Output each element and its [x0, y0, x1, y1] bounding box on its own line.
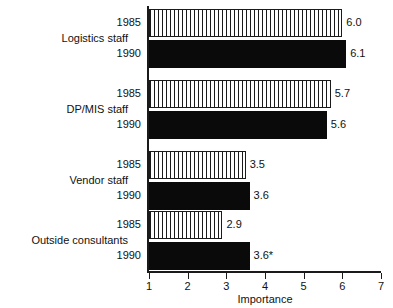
x-axis-tick-label: 6	[330, 280, 354, 292]
year-label: 1990	[107, 189, 141, 201]
x-axis-tick	[342, 273, 343, 279]
x-axis-tick-label: 7	[369, 280, 393, 292]
year-label: 1990	[107, 47, 141, 59]
bar-1985-outside-consultants	[149, 211, 222, 239]
x-axis-line	[147, 271, 381, 273]
year-label: 1985	[107, 218, 141, 230]
bar-1990-outside-consultants	[149, 242, 250, 270]
bar-chart: 1234567 Logistics staff19856.019906.1DP/…	[0, 0, 393, 308]
bar-1985-vendor-staff	[149, 151, 246, 179]
year-label: 1985	[107, 158, 141, 170]
year-label: 1985	[107, 87, 141, 99]
x-axis-title: Importance	[149, 293, 381, 305]
year-label: 1990	[107, 249, 141, 261]
bar-value-label: 2.9	[226, 218, 241, 230]
bar-value-label: 6.1	[350, 47, 365, 59]
category-label: Logistics staff	[8, 32, 128, 44]
x-axis-tick	[304, 273, 305, 279]
bar-value-label: 3.5	[250, 158, 265, 170]
bar-1990-vendor-staff	[149, 182, 250, 210]
x-axis-tick-label: 5	[292, 280, 316, 292]
bar-value-label: 3.6*	[254, 249, 274, 261]
category-label: Outside consultants	[8, 234, 128, 246]
x-axis-tick-label: 1	[137, 280, 161, 292]
category-label: Vendor staff	[8, 174, 128, 186]
bar-value-label: 6.0	[346, 16, 361, 28]
x-axis-tick	[226, 273, 227, 279]
category-label: DP/MIS staff	[8, 103, 128, 115]
x-axis-tick-label: 2	[176, 280, 200, 292]
year-label: 1985	[107, 16, 141, 28]
bar-1985-dp-mis-staff	[149, 80, 331, 108]
bar-value-label: 3.6	[254, 189, 269, 201]
bar-1985-logistics-staff	[149, 9, 342, 37]
year-label: 1990	[107, 118, 141, 130]
bar-value-label: 5.7	[335, 87, 350, 99]
x-axis-tick	[149, 273, 150, 279]
x-axis-tick-label: 3	[214, 280, 238, 292]
x-axis-tick	[381, 273, 382, 279]
bar-value-label: 5.6	[331, 118, 346, 130]
x-axis-tick	[188, 273, 189, 279]
x-axis-tick	[265, 273, 266, 279]
bar-1990-logistics-staff	[149, 40, 346, 68]
x-axis-tick-label: 4	[253, 280, 277, 292]
bar-1990-dp-mis-staff	[149, 111, 327, 139]
